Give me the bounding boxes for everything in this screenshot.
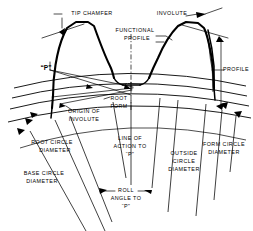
outside-circle-arc (14, 73, 246, 88)
arrow-left-base (17, 128, 25, 135)
label-line-of-action-line2: ACTION TO (113, 143, 146, 149)
arrow-roll-right (144, 190, 152, 194)
label-involute: INVOLUTE (157, 10, 188, 16)
label-base-circle-line1: BASE CIRCLE (24, 170, 65, 176)
label-line-of-action-line3: “P” (126, 151, 135, 157)
label-form-circle-line2: DIAMETER (208, 149, 239, 155)
label-p-point: “P” (41, 64, 52, 71)
radial-outside-circle (152, 98, 160, 188)
involute-leader (186, 14, 198, 16)
label-roll-angle-line1: ROLL (118, 187, 134, 193)
label-form-circle-line1: FORM CIRCLE (203, 141, 245, 147)
label-root-form-line1: ROOT (111, 95, 128, 101)
arrow-profile-top (216, 36, 224, 42)
right-tip-chamfer-line (182, 25, 228, 38)
gear-involute-diagram: TIP CHAMFER INVOLUTE FUNCTIONAL PROFILE … (0, 0, 253, 231)
base-circle-arc (8, 106, 251, 122)
label-outside-circle-line3: DIAMETER (168, 166, 199, 172)
label-root-circle-line2: DIAMETER (39, 147, 70, 153)
left-edge-partial-tooth (51, 108, 52, 118)
label-root-circle-line1: ROOT CIRCLE (31, 139, 73, 145)
label-functional-profile-line1: FUNCTIONAL (116, 27, 155, 33)
label-origin-line1: ORIGIN OF (68, 108, 100, 114)
label-profile: PROFILE (223, 66, 249, 72)
radial-form-circle (196, 104, 206, 216)
arrow-involute (196, 12, 206, 18)
label-roll-angle-line2: ANGLE TO (111, 195, 142, 201)
label-functional-profile-line2: PROFILE (124, 35, 150, 41)
root-circle-arc (10, 94, 249, 109)
radial-origin (70, 116, 112, 222)
label-tip-chamfer: TIP CHAMFER (71, 10, 112, 16)
diagram-canvas: TIP CHAMFER INVOLUTE FUNCTIONAL PROFILE … (0, 0, 253, 231)
label-roll-angle-line3: “P” (122, 203, 131, 209)
label-base-circle-line2: DIAMETER (26, 178, 57, 184)
arrow-profile-bottom (216, 103, 224, 110)
right-edge-partial-tooth (214, 88, 215, 100)
text-labels-group: TIP CHAMFER INVOLUTE FUNCTIONAL PROFILE … (24, 10, 249, 209)
label-origin-line2: INVOLUTE (69, 116, 100, 122)
radial-leaders-group (30, 98, 236, 231)
label-outside-circle-line1: OUTSIDE (170, 150, 197, 156)
root-form-leader (104, 97, 110, 99)
involute-leader-tail (205, 8, 222, 14)
label-outside-circle-line2: CIRCLE (173, 158, 195, 164)
right-tooth-outline (149, 22, 214, 88)
arrow-tip-chamfer (59, 28, 65, 36)
label-line-of-action-line1: LINE OF (118, 135, 142, 141)
label-root-form-line2: FORM (110, 103, 127, 109)
arrow-left-root (25, 118, 33, 125)
